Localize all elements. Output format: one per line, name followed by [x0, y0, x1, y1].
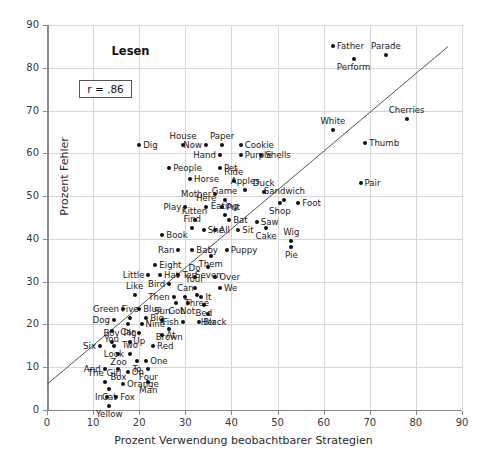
data-point-label: Then	[148, 292, 169, 301]
y-tick-label: 20	[5, 318, 39, 329]
y-tick-mark	[43, 25, 47, 26]
data-point	[167, 282, 171, 286]
y-tick-label: 10	[5, 361, 39, 372]
x-tick-mark	[278, 411, 279, 415]
data-point-label: Dig	[143, 140, 157, 149]
data-point-label: Over	[219, 273, 240, 282]
data-point-label: Sandwich	[264, 188, 305, 197]
data-point-label: Do	[189, 265, 201, 274]
x-tick-mark	[370, 411, 371, 415]
data-point	[204, 143, 208, 147]
gridline-horizontal	[47, 68, 462, 69]
data-point	[190, 248, 194, 252]
data-point	[239, 143, 243, 147]
data-point	[209, 254, 213, 258]
data-point	[218, 286, 222, 290]
data-point-label: Fox	[120, 393, 135, 402]
data-point	[112, 344, 116, 348]
gridline-vertical	[370, 25, 371, 410]
data-point-label: Bat	[233, 215, 248, 224]
x-tick-mark	[139, 411, 140, 415]
data-point	[186, 301, 190, 305]
scatter-chart: Prozent Fehler Prozent Verwendung beobac…	[0, 0, 487, 457]
data-point-label: At	[166, 331, 175, 340]
data-point	[103, 380, 107, 384]
x-tick-mark	[47, 411, 48, 415]
gridline-horizontal	[47, 196, 462, 197]
data-point	[359, 181, 363, 185]
data-point	[223, 213, 227, 217]
gridline-vertical	[416, 25, 417, 410]
data-point	[331, 128, 335, 132]
data-point-label: Bird	[148, 280, 165, 289]
gridline-vertical	[139, 25, 140, 410]
data-point-label: Sun	[154, 308, 170, 317]
y-tick-label: 70	[5, 105, 39, 116]
data-point-label: Cherries	[389, 107, 425, 116]
y-tick-mark	[43, 282, 47, 283]
y-tick-label: 90	[5, 19, 39, 30]
data-point-label: Zoo	[110, 358, 126, 367]
plot-title: Lesen	[112, 44, 150, 58]
y-axis-label: Prozent Fehler	[58, 107, 71, 247]
gridline-vertical	[462, 25, 463, 410]
gridline-vertical	[324, 25, 325, 410]
data-point-label: Nine	[146, 320, 166, 329]
data-point	[151, 344, 155, 348]
x-tick-mark	[93, 411, 94, 415]
data-point	[243, 188, 247, 192]
x-tick-label: 80	[396, 417, 436, 428]
y-tick-label: 60	[5, 147, 39, 158]
data-point-label: Dog	[93, 316, 110, 325]
data-point	[188, 177, 192, 181]
data-point-label: The Girl	[88, 370, 122, 379]
data-point	[183, 295, 187, 299]
correlation-annotation: r = .86	[79, 80, 132, 98]
data-point	[363, 141, 367, 145]
data-point-label: Red	[157, 342, 173, 351]
y-tick-mark	[43, 324, 47, 325]
data-point-label: Sit	[242, 226, 253, 235]
data-point	[144, 359, 148, 363]
data-point	[172, 295, 176, 299]
x-tick-mark	[416, 411, 417, 415]
data-point	[296, 201, 300, 205]
x-tick-label: 20	[119, 417, 159, 428]
data-point	[110, 340, 114, 344]
data-point	[384, 53, 388, 57]
data-point-label: It	[205, 292, 211, 301]
y-tick-label: 30	[5, 276, 39, 287]
x-tick-label: 60	[304, 417, 344, 428]
data-point-label: We	[224, 284, 237, 293]
data-point-label: Ran	[158, 245, 175, 254]
data-point	[195, 293, 199, 297]
data-point	[137, 143, 141, 147]
x-tick-label: 90	[442, 417, 482, 428]
data-point-label: Father	[337, 42, 364, 51]
y-tick-mark	[43, 68, 47, 69]
data-point-label: Parade	[371, 42, 401, 51]
data-point-label: Six	[83, 342, 96, 351]
data-point-label: Now	[183, 140, 202, 149]
y-tick-label: 50	[5, 190, 39, 201]
data-point	[135, 359, 139, 363]
data-point-label: Eight	[159, 260, 181, 269]
x-tick-mark	[185, 411, 186, 415]
data-point-label: Not	[180, 307, 195, 316]
data-point-label: Perform	[337, 63, 371, 72]
gridline-horizontal	[47, 282, 462, 283]
data-point-label: Little	[123, 271, 145, 280]
x-tick-label: 40	[211, 417, 251, 428]
data-point-label: Find	[183, 216, 201, 225]
data-point-label: Shop	[269, 207, 291, 216]
data-point-label: Thumb	[369, 138, 399, 147]
x-tick-label: 70	[350, 417, 390, 428]
data-point	[202, 303, 206, 307]
data-point	[112, 318, 116, 322]
y-tick-label: 80	[5, 62, 39, 73]
data-point	[255, 220, 259, 224]
data-point-label: Black	[203, 318, 226, 327]
y-axis-line	[47, 25, 49, 410]
data-point-label: Can	[177, 284, 194, 293]
data-point-label: Foot	[302, 198, 321, 207]
